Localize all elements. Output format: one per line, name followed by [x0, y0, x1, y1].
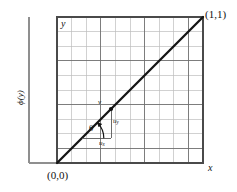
- phi-axis-bracket: [29, 17, 57, 163]
- point-v-marker: [109, 107, 113, 111]
- top-right-label: (1,1): [205, 9, 226, 20]
- uy-label: uy: [113, 118, 119, 125]
- origin-label: (0,0): [47, 170, 68, 181]
- ux-label: ux: [99, 140, 105, 147]
- point-v-label: v: [98, 99, 101, 106]
- y-axis-label: y: [61, 19, 65, 29]
- ux-label-sub: x: [103, 142, 105, 147]
- uy-label-sub: y: [117, 120, 119, 125]
- theta-label: θ: [89, 124, 93, 133]
- x-axis-label: x: [208, 163, 212, 173]
- phi-axis-label: ϕ(y): [16, 90, 25, 105]
- diagram-canvas: [0, 0, 237, 192]
